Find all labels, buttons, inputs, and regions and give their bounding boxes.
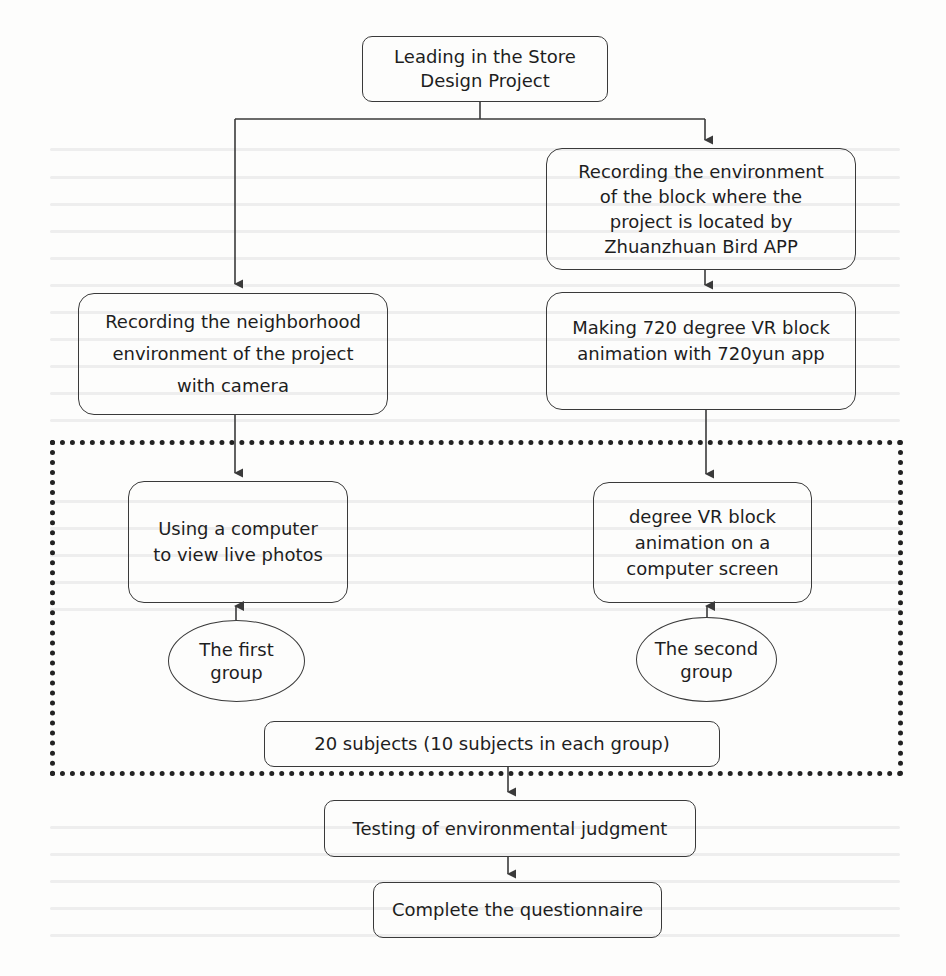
node-view-vr-animation: degree VR block animation on a computer …	[593, 482, 812, 603]
node-record-neighborhood: Recording the neighborhood environment o…	[78, 293, 388, 415]
node-subjects: 20 subjects (10 subjects in each group)	[264, 721, 720, 767]
node-testing-judgment: Testing of environmental judgment	[324, 800, 696, 857]
node-record-block-environment: Recording the environment of the block w…	[546, 148, 856, 270]
node-first-group: The first group	[168, 620, 305, 702]
diagram-canvas: Leading in the Store Design Project Reco…	[0, 0, 946, 976]
node-complete-questionnaire: Complete the questionnaire	[373, 882, 662, 938]
bleed-line	[50, 284, 900, 287]
node-view-live-photos: Using a computer to view live photos	[128, 481, 348, 603]
bleed-line	[50, 419, 900, 422]
node-second-group: The second group	[636, 617, 777, 702]
node-leading-in-project: Leading in the Store Design Project	[362, 36, 608, 102]
node-make-vr-animation: Making 720 degree VR block animation wit…	[546, 292, 856, 410]
